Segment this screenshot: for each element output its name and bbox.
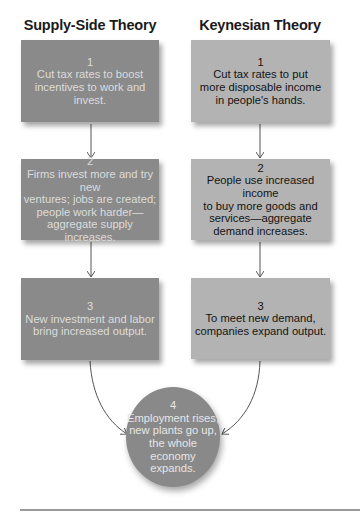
- outcome-circle: 4 Employment rises, new plants go up, th…: [126, 387, 220, 487]
- step-text: People use increased income to buy more …: [191, 174, 330, 237]
- arrow-keynes-3-4: [222, 361, 260, 434]
- step-number: 4: [170, 399, 176, 412]
- step-number: 2: [87, 155, 93, 168]
- step-text: Cut tax rates to put more disposable inc…: [200, 68, 321, 106]
- step-text: Cut tax rates to boost incentives to wor…: [21, 68, 159, 106]
- supply-step-2: 2 Firms invest more and try new ventures…: [21, 159, 159, 240]
- keynesian-step-1: 1 Cut tax rates to put more disposable i…: [191, 40, 330, 122]
- supply-step-1: 1 Cut tax rates to boost incentives to w…: [21, 40, 159, 122]
- supply-step-3: 3 New investment and labor bring increas…: [21, 278, 159, 360]
- step-number: 3: [257, 300, 263, 313]
- step-text: Firms invest more and try new ventures; …: [21, 168, 159, 244]
- bottom-divider: [20, 509, 360, 511]
- outcome-text: Employment rises, new plants go up, the …: [126, 412, 220, 475]
- arrow-supply-3-4: [90, 361, 127, 434]
- step-number: 3: [87, 300, 93, 313]
- step-number: 1: [257, 56, 263, 69]
- step-text: New investment and labor bring increased…: [25, 313, 154, 338]
- keynesian-step-2: 2 People use increased income to buy mor…: [191, 159, 330, 240]
- step-number: 2: [257, 162, 263, 175]
- step-text: To meet new demand, companies expand out…: [195, 312, 326, 337]
- step-number: 1: [87, 56, 93, 69]
- keynesian-step-3: 3 To meet new demand, companies expand o…: [191, 278, 330, 359]
